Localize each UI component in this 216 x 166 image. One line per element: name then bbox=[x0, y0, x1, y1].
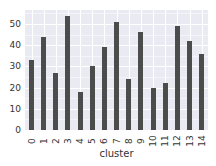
x-tick-label: 12 bbox=[172, 134, 182, 148]
x-tick-label: 5 bbox=[87, 134, 97, 148]
bar bbox=[53, 73, 58, 130]
x-tick-label: 10 bbox=[148, 134, 158, 148]
bar bbox=[41, 37, 46, 130]
x-tick-label: 9 bbox=[136, 134, 146, 148]
x-tick-label: 2 bbox=[51, 134, 61, 148]
x-tick-label: 11 bbox=[160, 134, 170, 148]
bar bbox=[102, 47, 107, 130]
x-tick-label: 6 bbox=[99, 134, 109, 148]
bar bbox=[29, 60, 34, 130]
bar bbox=[90, 66, 95, 130]
x-tick-label: 3 bbox=[63, 134, 73, 148]
bar bbox=[175, 26, 180, 130]
bar bbox=[163, 83, 168, 130]
bar bbox=[126, 79, 131, 130]
y-tick-label: 40 bbox=[0, 40, 21, 50]
y-tick-label: 20 bbox=[0, 83, 21, 93]
y-tick-label: 0 bbox=[0, 125, 21, 135]
bar bbox=[138, 32, 143, 130]
x-tick-label: 13 bbox=[185, 134, 195, 148]
x-tick-label: 4 bbox=[75, 134, 85, 148]
y-tick-label: 10 bbox=[0, 104, 21, 114]
bar bbox=[114, 22, 119, 130]
x-tick-label: 8 bbox=[124, 134, 134, 148]
x-tick-label: 1 bbox=[39, 134, 49, 148]
bar bbox=[151, 88, 156, 130]
y-tick-label: 30 bbox=[0, 61, 21, 71]
x-tick-label: 0 bbox=[27, 134, 37, 148]
bar bbox=[78, 92, 83, 130]
bar bbox=[199, 54, 204, 130]
x-tick-label: 14 bbox=[197, 134, 207, 148]
bar bbox=[187, 41, 192, 130]
x-tick-label: 7 bbox=[112, 134, 122, 148]
x-axis-label: cluster bbox=[25, 148, 208, 159]
bar bbox=[65, 16, 70, 130]
y-tick-label: 50 bbox=[0, 19, 21, 29]
plot-area bbox=[25, 10, 208, 131]
